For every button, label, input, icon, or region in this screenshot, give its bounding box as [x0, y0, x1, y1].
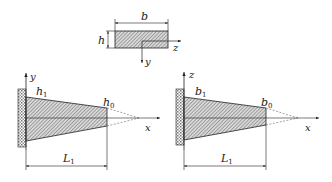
tapered-beam-diagram: b h z y y x h1 h0 L1 z x b: [0, 0, 332, 182]
fixed-wall: [176, 89, 184, 145]
y-axis-label: y: [29, 71, 36, 82]
tapered-beam-profile: [184, 97, 266, 140]
x-axis-label: x: [305, 122, 311, 133]
height-label: h: [98, 34, 105, 47]
z-axis-label: z: [188, 69, 195, 80]
root-width-label: b1: [195, 85, 207, 99]
width-label: b: [141, 10, 148, 23]
front-view-beam: y x h1 h0 L1: [18, 71, 160, 170]
fixed-wall: [18, 89, 26, 147]
x-axis-label: x: [145, 122, 151, 133]
z-axis-label: z: [172, 42, 179, 53]
length-label: L1: [220, 152, 233, 166]
cross-section-rect: [115, 31, 168, 48]
tip-width-label: b0: [261, 96, 273, 110]
cross-section: b h z y: [98, 10, 181, 67]
length-label: L1: [62, 152, 75, 166]
y-axis-label: y: [144, 56, 151, 67]
top-view-beam: z x b1 b0 L1: [176, 69, 319, 170]
tip-height-label: h0: [103, 96, 115, 110]
tapered-beam-profile: [26, 97, 107, 141]
root-height-label: h1: [36, 85, 48, 99]
